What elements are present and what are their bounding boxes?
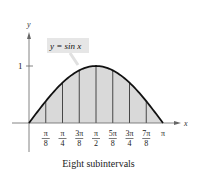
x-tick-label: 2 [94,139,98,148]
sine-area-diagram: x y 1 y = sin x π8π43π8π25π83π47π8π [0,0,197,173]
x-tick-label: 4 [128,139,132,148]
x-tick-label: 3π [75,129,83,138]
x-tick-label: 7π [142,129,150,138]
x-tick-label: 4 [61,139,65,148]
x-axis-arrow-icon [174,121,181,125]
x-tick-label: π [44,129,48,138]
x-tick-label: 5π [109,129,117,138]
x-tick-label: 8 [44,139,48,148]
x-tick-label: 3π [125,129,133,138]
label-pointer [70,53,78,65]
x-tick-label: π [161,129,165,138]
x-tick-label: π [94,129,98,138]
figure-caption: Eight subintervals [0,158,197,169]
x-axis-label: x [183,119,188,128]
x-tick-label: 8 [111,139,115,148]
function-label: y = sin x [49,41,81,51]
x-tick-label: 8 [77,139,81,148]
y-axis-arrow-icon [27,32,31,39]
x-tick-labels: π8π43π8π25π83π47π8π [42,129,165,148]
y-tick-label: 1 [18,61,23,71]
y-axis-label: y [26,20,31,29]
x-tick-label: π [60,129,64,138]
x-tick-label: 8 [144,139,148,148]
